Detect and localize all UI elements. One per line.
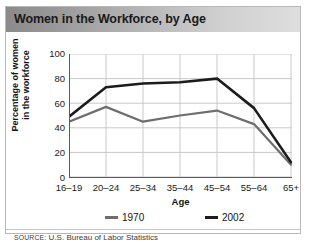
legend-swatch-2002 (205, 216, 218, 219)
source-text: U.S. Bureau of Labor Statistics (46, 233, 158, 242)
page-title: Women in the Workforce, by Age (14, 12, 206, 26)
source-prefix: SOURCE: (14, 234, 46, 241)
legend-item-1970: 1970 (105, 212, 144, 223)
source-note: SOURCE: U.S. Bureau of Labor Statistics (14, 233, 158, 242)
legend-swatch-1970 (105, 216, 118, 219)
x-axis-ticks: 16–1920–2425–3435–4445–5455–6465+ (69, 182, 292, 196)
y-axis-title-line1: Percentage of women (10, 38, 20, 131)
legend-item-2002: 2002 (205, 212, 244, 223)
x-tick-label: 35–44 (167, 182, 193, 193)
legend-label-1970: 1970 (122, 212, 144, 223)
x-tick-label: 16–19 (56, 182, 82, 193)
x-tick-label: 25–34 (130, 182, 156, 193)
line-chart-svg (69, 54, 292, 178)
y-axis-ticks: 100 80 60 40 20 0 (36, 54, 65, 178)
y-tick-100: 100 (39, 48, 65, 59)
plot-canvas (69, 54, 292, 178)
x-tick-label: 65+ (283, 182, 299, 193)
y-tick-40: 40 (39, 122, 65, 133)
chart-title-bar: Women in the Workforce, by Age (6, 7, 300, 32)
chart-legend: 1970 2002 (69, 212, 292, 226)
x-axis-title: Age (69, 196, 292, 207)
y-tick-20: 20 (39, 147, 65, 158)
y-tick-60: 60 (39, 98, 65, 109)
legend-label-2002: 2002 (222, 212, 244, 223)
x-tick-label: 20–24 (93, 182, 119, 193)
chart-figure: Women in the Workforce, by Age Percentag… (5, 6, 301, 234)
chart-plot-area: Percentage of women in the workforce 100… (6, 32, 300, 233)
y-tick-80: 80 (39, 73, 65, 84)
x-tick-label: 55–64 (241, 182, 267, 193)
y-axis-title-line2: in the workforce (21, 50, 31, 120)
x-tick-label: 45–54 (204, 182, 230, 193)
source-divider (6, 229, 300, 230)
